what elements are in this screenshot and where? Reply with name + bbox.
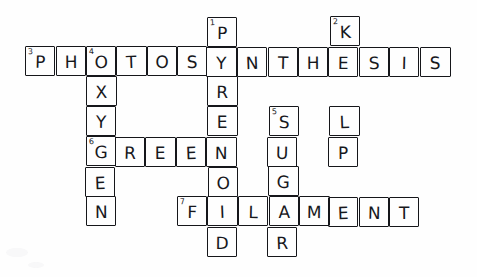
cell-letter: D xyxy=(207,226,238,256)
cell-letter: N xyxy=(206,137,237,167)
cell-letter: E xyxy=(207,106,238,136)
cell-letter: Y xyxy=(86,105,117,136)
cell-clue-number: 6 xyxy=(89,138,95,146)
crossword-sheet: P1K2P3HO4TOSYNTHESISXRYES5LG6REENUPEOGNF… xyxy=(0,0,477,277)
cell-letter: E xyxy=(327,197,359,228)
cell-letter: O xyxy=(208,167,239,197)
cell-letter: E xyxy=(145,137,176,167)
cell-letter: G xyxy=(268,166,299,197)
cell-letter: E xyxy=(327,47,358,77)
crossword-grid[interactable]: P1K2P3HO4TOSYNTHESISXRYES5LG6REENUPEOGNF… xyxy=(0,0,477,277)
cell-letter: E xyxy=(175,136,207,167)
cell-clue-number: 3 xyxy=(27,48,33,56)
cell-letter: R xyxy=(207,75,238,105)
cell-clue-number: 7 xyxy=(180,198,186,206)
cell-letter: Y xyxy=(206,47,237,77)
cell-letter: N xyxy=(358,196,389,227)
cell-letter: A xyxy=(269,196,300,226)
cell-clue-number: 5 xyxy=(271,107,277,115)
cell-letter: E xyxy=(84,167,116,198)
cell-letter: L xyxy=(329,105,361,136)
cell-letter: H xyxy=(298,47,329,77)
cell-letter: L xyxy=(238,196,269,227)
cell-letter: T xyxy=(267,47,298,78)
cell-letter: N xyxy=(86,196,117,226)
cell-letter: X xyxy=(86,75,118,106)
cell-letter: N xyxy=(236,47,268,78)
cell-letter: U xyxy=(266,136,297,167)
cell-letter: S xyxy=(420,47,451,77)
cell-letter: T xyxy=(389,197,420,227)
cell-clue-number: 4 xyxy=(88,48,94,56)
cell-letter: T xyxy=(116,45,148,76)
cell-letter: O xyxy=(146,46,177,77)
cell-letter: S xyxy=(177,46,208,76)
cell-letter: I xyxy=(207,196,239,227)
cell-letter: S xyxy=(358,47,390,78)
cell-letter: R xyxy=(115,137,146,168)
cell-clue-number: 1 xyxy=(210,19,216,27)
cell-letter: I xyxy=(389,47,420,78)
cell-letter: H xyxy=(55,46,86,76)
cell-clue-number: 2 xyxy=(332,18,338,26)
cell-letter: P xyxy=(327,137,358,167)
cell-letter: M xyxy=(299,196,330,226)
cell-letter: R xyxy=(267,226,299,257)
